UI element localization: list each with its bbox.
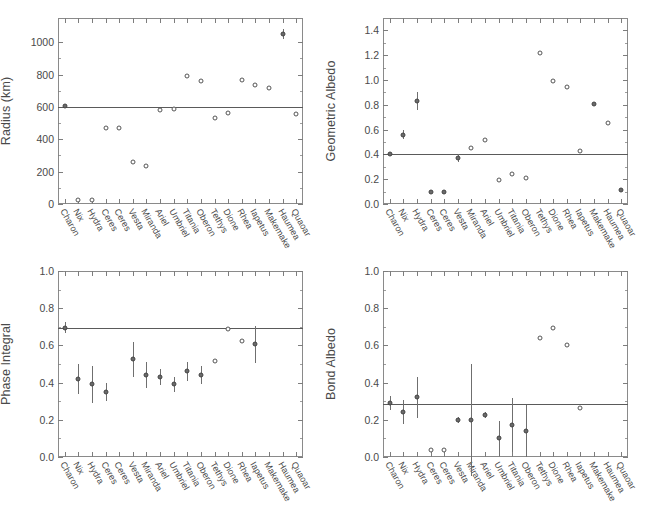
x-tick-mark	[403, 271, 404, 276]
y-minor-tick-mark	[300, 123, 303, 124]
y-tick-label: 0.6	[24, 339, 54, 351]
y-tick-mark	[383, 420, 388, 421]
x-tick-mark	[201, 199, 202, 204]
x-tick-mark	[444, 18, 445, 23]
x-tick-mark	[390, 199, 391, 204]
x-tick-mark	[160, 452, 161, 457]
y-tick-label: 1.0	[349, 265, 379, 277]
x-tick-mark	[526, 18, 527, 23]
y-tick-label: 200	[24, 166, 54, 178]
data-point-marker	[185, 74, 190, 79]
data-point-marker	[212, 359, 217, 364]
data-point-marker	[455, 417, 460, 422]
data-point-marker	[564, 343, 569, 348]
x-tick-mark	[228, 18, 229, 23]
y-tick-mark	[298, 42, 303, 43]
y-minor-tick-mark	[383, 68, 386, 69]
x-tick-mark	[78, 271, 79, 276]
x-tick-mark	[133, 452, 134, 457]
data-point-marker	[415, 395, 420, 400]
y-minor-tick-mark	[300, 438, 303, 439]
x-tick-mark	[458, 18, 459, 23]
x-tick-mark	[567, 271, 568, 276]
x-tick-mark	[417, 452, 418, 457]
plot-area	[383, 271, 628, 457]
x-tick-mark	[187, 271, 188, 276]
x-tick-mark	[201, 271, 202, 276]
data-point-marker	[605, 121, 610, 126]
y-tick-mark	[623, 179, 628, 180]
x-tick-mark	[119, 18, 120, 23]
y-minor-tick-mark	[300, 188, 303, 189]
data-point-marker	[496, 436, 501, 441]
data-point-marker	[469, 146, 474, 151]
x-tick-mark	[119, 199, 120, 204]
x-tick-mark	[431, 18, 432, 23]
y-tick-mark	[58, 139, 63, 140]
y-axis-label: Phase Integral	[0, 312, 13, 416]
x-tick-mark	[485, 271, 486, 276]
x-tick-mark	[78, 18, 79, 23]
y-tick-label: 0.4	[349, 377, 379, 389]
y-tick-mark	[298, 420, 303, 421]
data-point-marker	[212, 116, 217, 121]
x-tick-mark	[444, 452, 445, 457]
data-point-marker	[564, 85, 569, 90]
x-tick-mark	[65, 18, 66, 23]
x-tick-mark	[594, 452, 595, 457]
x-tick-mark	[580, 271, 581, 276]
x-tick-mark	[526, 271, 527, 276]
y-minor-tick-mark	[625, 192, 628, 193]
x-tick-mark	[65, 199, 66, 204]
data-point-marker	[510, 423, 515, 428]
data-point-marker	[442, 189, 447, 194]
y-minor-tick-mark	[625, 290, 628, 291]
data-point-marker	[428, 448, 433, 453]
x-tick-mark	[65, 271, 66, 276]
y-minor-tick-mark	[58, 438, 61, 439]
y-tick-mark	[298, 139, 303, 140]
x-tick-mark	[106, 18, 107, 23]
y-tick-mark	[383, 80, 388, 81]
x-tick-mark	[471, 18, 472, 23]
x-tick-mark	[269, 18, 270, 23]
y-minor-tick-mark	[300, 58, 303, 59]
y-tick-mark	[298, 271, 303, 272]
x-tick-mark	[146, 199, 147, 204]
x-tick-mark	[283, 18, 284, 23]
y-tick-label: 0.6	[349, 124, 379, 136]
y-tick-mark	[623, 383, 628, 384]
y-tick-mark	[383, 130, 388, 131]
x-tick-mark	[540, 199, 541, 204]
y-tick-mark	[623, 30, 628, 31]
y-tick-mark	[623, 80, 628, 81]
x-tick-mark	[283, 199, 284, 204]
plot-area	[58, 271, 303, 457]
x-tick-mark	[431, 199, 432, 204]
y-minor-tick-mark	[625, 167, 628, 168]
x-tick-mark	[471, 199, 472, 204]
figure-four-panel-scatter: Radius (km)02004006008001000CharonNixHyd…	[0, 0, 649, 506]
y-tick-label: 0.8	[24, 302, 54, 314]
x-tick-mark	[133, 271, 134, 276]
x-tick-mark	[174, 271, 175, 276]
x-tick-mark	[92, 271, 93, 276]
x-tick-mark	[594, 18, 595, 23]
y-minor-tick-mark	[625, 92, 628, 93]
y-tick-label: 1.4	[349, 24, 379, 36]
x-tick-mark	[594, 271, 595, 276]
data-point-marker	[62, 325, 67, 330]
data-point-marker	[198, 373, 203, 378]
data-point-marker	[239, 338, 244, 343]
y-minor-tick-mark	[383, 290, 386, 291]
reference-line	[58, 107, 303, 108]
y-tick-label: 1.0	[349, 74, 379, 86]
y-tick-label: 400	[24, 133, 54, 145]
x-tick-mark	[512, 199, 513, 204]
y-tick-label: 0.4	[349, 148, 379, 160]
y-tick-mark	[383, 179, 388, 180]
x-tick-mark	[215, 199, 216, 204]
x-tick-mark	[621, 271, 622, 276]
y-tick-mark	[58, 172, 63, 173]
y-minor-tick-mark	[58, 364, 61, 365]
